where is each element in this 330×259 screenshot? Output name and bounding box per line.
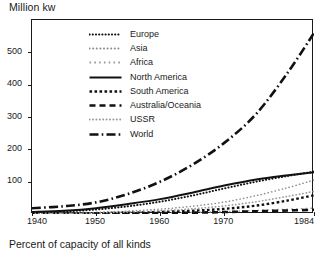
legend-swatch-icon bbox=[89, 44, 122, 53]
legend-swatch-icon bbox=[89, 73, 122, 82]
y-axis-label: 300 bbox=[7, 111, 22, 121]
legend-swatch-icon bbox=[89, 30, 122, 39]
legend-swatch-icon bbox=[89, 87, 122, 96]
x-axis-label: 1970 bbox=[210, 216, 236, 226]
legend-item-label: South America bbox=[130, 87, 189, 96]
legend-item[interactable]: North America bbox=[89, 70, 249, 84]
x-axis-label: 1940 bbox=[24, 216, 50, 226]
legend-item[interactable]: World bbox=[89, 127, 249, 141]
y-axis-tick bbox=[28, 117, 32, 118]
legend-item[interactable]: South America bbox=[89, 84, 249, 98]
legend-item[interactable]: USSR bbox=[89, 113, 249, 127]
legend-item-label: World bbox=[130, 130, 153, 139]
chart-caption: Percent of capacity of all kinds bbox=[9, 238, 151, 250]
legend-item-label: Africa bbox=[130, 58, 153, 67]
legend-swatch-icon bbox=[89, 130, 122, 139]
y-axis-tick bbox=[28, 85, 32, 86]
chart-legend: EuropeAsiaAfricaNorth AmericaSouth Ameri… bbox=[89, 27, 249, 141]
legend-item-label: Australia/Oceania bbox=[130, 101, 201, 110]
legend-item[interactable]: Asia bbox=[89, 41, 249, 55]
x-axis-label: 1950 bbox=[82, 216, 108, 226]
legend-swatch-icon bbox=[89, 58, 122, 67]
y-axis-tick bbox=[28, 182, 32, 183]
x-axis-label: 1960 bbox=[146, 216, 172, 226]
legend-item-label: USSR bbox=[130, 115, 155, 124]
legend-item[interactable]: Africa bbox=[89, 56, 249, 70]
y-axis-label: 200 bbox=[7, 143, 22, 153]
y-axis-label: 100 bbox=[7, 175, 22, 185]
y-axis-tick bbox=[28, 149, 32, 150]
legend-item[interactable]: Europe bbox=[89, 27, 249, 41]
chart-title: Million kw bbox=[9, 1, 56, 13]
legend-swatch-icon bbox=[89, 101, 122, 110]
y-axis-label: 500 bbox=[7, 46, 22, 56]
chart-figure: Million kw 10020030040050019401950196019… bbox=[0, 0, 330, 259]
legend-item-label: Asia bbox=[130, 44, 148, 53]
legend-item-label: Europe bbox=[130, 30, 159, 39]
legend-swatch-icon bbox=[89, 115, 122, 124]
y-axis-label: 400 bbox=[7, 78, 22, 88]
x-axis-label: 1984 bbox=[291, 216, 317, 226]
y-axis-tick bbox=[28, 52, 32, 53]
legend-item-label: North America bbox=[130, 73, 187, 82]
legend-item[interactable]: Australia/Oceania bbox=[89, 98, 249, 112]
